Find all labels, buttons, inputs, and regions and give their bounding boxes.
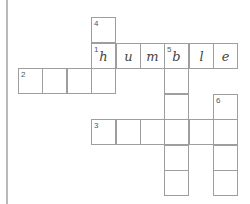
crossword-cell[interactable]: 3 <box>91 119 116 145</box>
crossword-cell[interactable]: m <box>140 43 165 69</box>
cell-letter: l <box>190 49 213 64</box>
crossword-cell[interactable]: l <box>189 43 214 69</box>
crossword-cell[interactable] <box>67 68 92 94</box>
crossword-cell[interactable]: 6 <box>213 94 238 120</box>
crossword-cell[interactable] <box>164 145 189 171</box>
crossword-cell[interactable] <box>164 170 189 196</box>
clue-number: 3 <box>94 121 98 130</box>
crossword-cell[interactable]: 2 <box>18 68 43 94</box>
crossword-cell[interactable]: 5b <box>164 43 189 69</box>
crossword-cell[interactable]: 4 <box>91 17 116 43</box>
cell-letter: h <box>92 49 115 64</box>
crossword-cell[interactable]: e <box>213 43 238 69</box>
crossword-cell[interactable] <box>164 119 189 145</box>
crossword-cell[interactable] <box>164 68 189 94</box>
crossword-cell[interactable] <box>140 119 165 145</box>
cell-letter: b <box>165 49 188 64</box>
clue-number: 6 <box>216 96 220 105</box>
crossword-cell[interactable] <box>42 68 67 94</box>
cell-letter: e <box>214 49 237 64</box>
crossword-cell[interactable] <box>189 119 214 145</box>
crossword-cell[interactable] <box>213 145 238 171</box>
crossword-cell[interactable] <box>213 170 238 196</box>
clue-number: 2 <box>21 70 25 79</box>
crossword-cell[interactable] <box>116 119 141 145</box>
cell-letter: u <box>117 49 140 64</box>
crossword-grid: 41hum5ble263 <box>0 0 250 204</box>
crossword-cell[interactable]: u <box>116 43 141 69</box>
crossword-cell[interactable] <box>213 119 238 145</box>
crossword-cell[interactable] <box>91 68 116 94</box>
crossword-cell[interactable] <box>164 94 189 120</box>
clue-number: 4 <box>94 19 98 28</box>
cell-letter: m <box>141 49 164 64</box>
crossword-cell[interactable]: 1h <box>91 43 116 69</box>
